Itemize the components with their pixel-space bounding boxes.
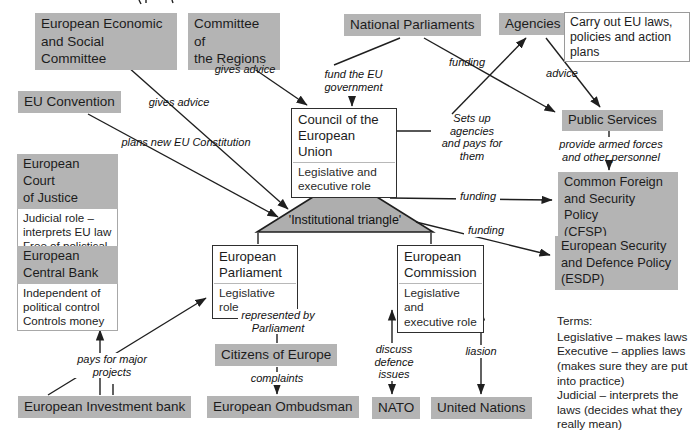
council-role: Legislative and executive role — [292, 163, 396, 196]
node-european-central-bank: European Central Bank Independent of pol… — [17, 246, 118, 331]
node-eesc: European Economic and Social Committee — [35, 13, 177, 70]
label-pays-major-projects: pays for major projects — [74, 353, 150, 378]
node-esdp: European Security and Defence Policy (ES… — [555, 236, 678, 290]
label-complaints: complaints — [246, 372, 308, 385]
label-gives-advice-eesc: gives advice — [144, 96, 214, 109]
node-eib: European Investment bank — [18, 396, 191, 418]
node-council: Council of the European Union Legislativ… — [291, 108, 397, 198]
node-citizens: Citizens of Europe — [215, 344, 337, 366]
label-funding-public-services: funding — [441, 56, 493, 69]
terms-legend: Terms: Legislative – makes laws Executiv… — [557, 314, 692, 432]
label-funding-esdp: funding — [464, 224, 508, 237]
clipped-text-fragment — [139, 0, 173, 4]
label-provide-forces: provide armed forces and other personnel — [557, 138, 665, 163]
ecb-title: European Central Bank — [17, 246, 118, 284]
node-committee-of-regions: Committee of the Regions — [188, 13, 280, 70]
label-funding-cfsp: funding — [456, 190, 500, 203]
edge-parliaments-to-fund-label — [334, 38, 400, 65]
ecb-role-note: Independent of political control Control… — [17, 284, 118, 331]
node-cfsp: Common Foreign and Security Policy (CFSP… — [558, 172, 678, 243]
label-plans-constitution: plans new EU Constitution — [120, 136, 252, 149]
node-public-services: Public Services — [562, 110, 663, 131]
node-parliament: European Parliament Legislative role — [212, 245, 298, 319]
node-nato: NATO — [372, 397, 420, 419]
label-discuss-defence: discuss defence issues — [356, 343, 432, 381]
ecj-title: European Court of Justice — [17, 154, 118, 209]
triangle-label: 'Institutional triangle' — [270, 213, 420, 227]
node-commission: European Commission Legislative and exec… — [397, 245, 484, 333]
node-agencies: Agencies — [499, 13, 567, 35]
edge-setsup-to-agencies — [452, 38, 526, 114]
node-national-parliaments: National Parliaments — [344, 14, 481, 36]
node-ombudsman: European Ombudsman — [207, 396, 359, 418]
terms-body: Legislative – makes laws Executive – app… — [557, 330, 692, 432]
node-united-nations: United Nations — [431, 397, 532, 419]
label-gives-advice-cor: gives advice — [210, 63, 280, 76]
eu-institutions-diagram: European Economic and Social Committee C… — [0, 0, 692, 433]
note-agencies-role: Carry out EU laws, policies and action p… — [564, 12, 690, 62]
node-eu-convention: EU Convention — [18, 91, 121, 113]
label-fund-eu-government: fund the EU government — [316, 68, 391, 93]
label-sets-up-agencies: Sets up agencies and pays for them — [430, 112, 514, 163]
commission-role: Legislative and executive role — [398, 284, 483, 331]
commission-title: European Commission — [398, 246, 483, 283]
label-represented-by: represented by Parliament — [238, 309, 318, 334]
label-advice: advice — [540, 67, 584, 80]
label-liasion: liasion — [458, 345, 504, 358]
council-title: Council of the European Union — [292, 109, 396, 162]
terms-title: Terms: — [557, 314, 692, 329]
parliament-title: European Parliament — [213, 246, 297, 283]
